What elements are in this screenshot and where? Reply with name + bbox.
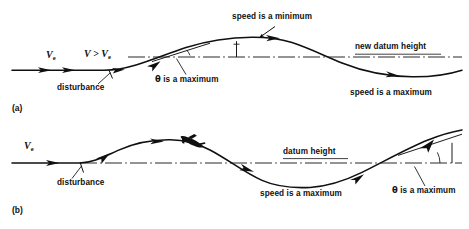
panel-b-disturbance-leader	[72, 166, 82, 179]
panel-b-theta-leader	[415, 167, 426, 187]
panel-b-datum-label: datum height	[283, 148, 336, 156]
panel-b-tag: (b)	[12, 206, 23, 215]
panel-a-theta-leader	[177, 59, 187, 75]
phugoid-oscillation-figure: Ve V > Ve disturbance θ is a maximum spe…	[0, 0, 469, 229]
panel-a-speed-max-label: speed is a maximum	[350, 89, 432, 97]
panel-b-ve-label: Ve	[24, 141, 34, 151]
panel-a-tag: (a)	[12, 104, 22, 113]
panel-a-tangent-line	[152, 43, 210, 61]
panel-a-ve-label: Ve	[46, 50, 56, 60]
panel-a-graphics	[12, 27, 462, 85]
panel-b-theta-arc-sweep	[437, 152, 440, 163]
panel-a-speed-min-label: speed is a minimum	[232, 13, 312, 21]
panel-a-disturbance-tick	[109, 70, 113, 78]
panel-b-speed-max-label: speed is a maximum	[260, 190, 342, 198]
aircraft-silhouette-icon	[178, 129, 207, 152]
panel-a-disturbance-label: disturbance	[57, 84, 105, 92]
panel-b-disturbance-label: disturbance	[57, 179, 105, 187]
panel-a-theta-max-label: θ is a maximum	[155, 75, 219, 84]
panel-a-v-greater-label: V > Ve	[84, 49, 111, 59]
panel-a-datum-label: new datum height	[355, 43, 426, 51]
panel-a-theta-arc	[187, 50, 190, 56]
panel-b-theta-max-label: θ is a maximum	[392, 186, 456, 195]
